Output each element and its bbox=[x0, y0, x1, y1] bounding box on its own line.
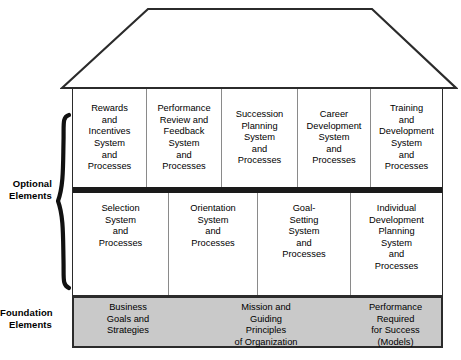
foundation-elements-bar: Business Goals and Strategies Mission an… bbox=[72, 296, 443, 348]
roof-icon bbox=[60, 6, 458, 90]
foundation-cell-business-goals-label: Business Goals and Strategies bbox=[74, 302, 182, 337]
cell-individual-development-planning-label: Individual Development Planning System a… bbox=[352, 203, 441, 273]
foundation-cell-business-goals[interactable]: Business Goals and Strategies bbox=[74, 298, 182, 337]
cell-succession-planning-label: Succession Planning System and Processes bbox=[223, 109, 296, 167]
cell-individual-development-planning[interactable]: Individual Development Planning System a… bbox=[351, 193, 442, 295]
cell-performance-review-and-feedback-label: Performance Review and Feedback System a… bbox=[148, 103, 220, 173]
cell-training-and-development-label: Training and Development System and Proc… bbox=[372, 103, 441, 173]
cell-goal-setting-label: Goal- Setting System and Processes bbox=[259, 203, 349, 261]
house-framework-diagram: Optional Elements Rewards and Incentives… bbox=[0, 0, 461, 360]
cell-orientation[interactable]: Orientation System and Processes bbox=[169, 193, 258, 295]
cell-rewards-and-incentives[interactable]: Rewards and Incentives System and Proces… bbox=[73, 89, 147, 187]
cell-selection[interactable]: Selection System and Processes bbox=[73, 193, 169, 295]
curly-brace-icon bbox=[55, 112, 73, 292]
foundation-cell-performance-required-for-success[interactable]: Performance Required for Success (Models… bbox=[350, 298, 441, 348]
foundation-cell-mission-and-guiding-principles[interactable]: Mission and Guiding Principles of Organi… bbox=[182, 298, 350, 348]
cell-orientation-label: Orientation System and Processes bbox=[170, 203, 256, 249]
cell-training-and-development[interactable]: Training and Development System and Proc… bbox=[371, 89, 442, 187]
optional-bottom-row: Selection System and Processes Orientati… bbox=[73, 193, 442, 295]
optional-elements-label: Optional Elements bbox=[0, 178, 52, 201]
foundation-elements-label: Foundation Elements bbox=[0, 307, 52, 330]
cell-career-development[interactable]: Career Development System and Processes bbox=[298, 89, 371, 187]
optional-top-row: Rewards and Incentives System and Proces… bbox=[73, 89, 442, 187]
cell-goal-setting[interactable]: Goal- Setting System and Processes bbox=[258, 193, 351, 295]
foundation-cell-mission-and-guiding-principles-label: Mission and Guiding Principles of Organi… bbox=[182, 302, 350, 348]
cell-rewards-and-incentives-label: Rewards and Incentives System and Proces… bbox=[74, 103, 145, 173]
cell-succession-planning[interactable]: Succession Planning System and Processes bbox=[222, 89, 298, 187]
foundation-cell-performance-required-for-success-label: Performance Required for Success (Models… bbox=[350, 302, 441, 348]
optional-elements-wall: Rewards and Incentives System and Proces… bbox=[72, 88, 443, 296]
cell-performance-review-and-feedback[interactable]: Performance Review and Feedback System a… bbox=[147, 89, 222, 187]
cell-career-development-label: Career Development System and Processes bbox=[299, 109, 369, 167]
cell-selection-label: Selection System and Processes bbox=[74, 203, 167, 249]
